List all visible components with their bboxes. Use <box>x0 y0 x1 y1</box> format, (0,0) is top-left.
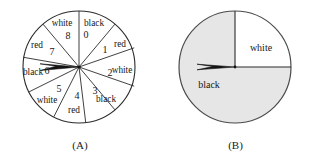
sector-number-5: 5 <box>57 83 62 94</box>
sector-color-4: red <box>68 105 80 115</box>
sector-number-6: 6 <box>45 65 50 76</box>
sector-color-8: white <box>52 18 73 28</box>
sector-color-0: black <box>84 18 104 28</box>
figure-a-spinner: 0 1 2 3 4 5 6 7 8 black red white black … <box>0 0 160 153</box>
figure-a-caption: (A) <box>0 139 160 151</box>
sector-color-1: red <box>114 39 126 49</box>
pie-pivot <box>234 66 237 69</box>
sector-color-7: red <box>31 40 43 50</box>
figure-b-spinner: white black (B) <box>160 0 311 153</box>
pie-region-white <box>235 11 291 67</box>
spinner-nine-sector-svg: 0 1 2 3 4 5 6 7 8 black red white black … <box>0 0 160 132</box>
spinner-pivot <box>77 65 80 68</box>
pie-label-black: black <box>198 79 220 90</box>
sector-number-4: 4 <box>75 90 80 101</box>
sector-number-8: 8 <box>66 30 71 41</box>
sector-number-1: 1 <box>103 44 108 55</box>
figure-b-caption: (B) <box>160 139 311 151</box>
figure-panel: 0 1 2 3 4 5 6 7 8 black red white black … <box>0 0 311 153</box>
spinner-two-region-svg: white black <box>160 0 311 132</box>
sector-color-2: white <box>112 65 133 75</box>
sector-color-5: white <box>37 95 58 105</box>
pie-label-white: white <box>250 42 273 53</box>
sector-color-6: black <box>23 67 43 77</box>
sector-number-0: 0 <box>84 29 89 40</box>
sector-color-3: black <box>96 94 116 104</box>
sector-number-7: 7 <box>50 46 55 57</box>
